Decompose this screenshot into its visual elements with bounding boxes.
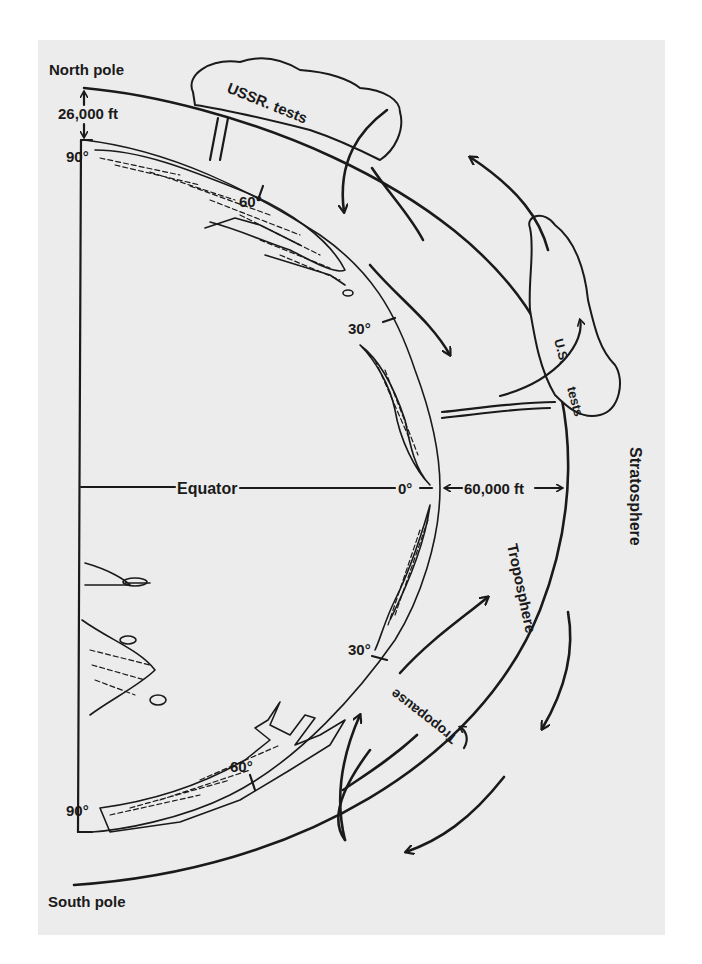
south-inner-line bbox=[343, 735, 417, 790]
ussr-mushroom-stem bbox=[210, 118, 228, 160]
atmosphere-diagram: USSR. tests U.S. tests North pole 26,000… bbox=[0, 0, 702, 964]
strat-bottom-arrow bbox=[406, 777, 504, 852]
south-upward-arrow bbox=[340, 715, 360, 840]
equator-tropopause-height-label: 60,000 ft bbox=[464, 480, 524, 497]
lat-60n-label: 60° bbox=[239, 193, 262, 210]
lat-90n-label: 90° bbox=[66, 148, 89, 165]
lat-30n-label: 30° bbox=[348, 320, 371, 337]
south-pole-label: South pole bbox=[48, 893, 126, 910]
north-pole-label: North pole bbox=[49, 61, 124, 78]
ussr-test-cloud: USSR. tests bbox=[191, 58, 401, 160]
northern-landmass bbox=[95, 150, 430, 485]
lat-30s-tick bbox=[372, 656, 387, 660]
us-mushroom-stem bbox=[442, 402, 555, 418]
strat-downward-arrow bbox=[542, 612, 570, 729]
equator-label: Equator bbox=[177, 480, 237, 497]
north-mid-arrow bbox=[370, 265, 450, 355]
lat-30n-tick bbox=[383, 318, 395, 322]
south-tropo-arrow bbox=[400, 597, 488, 673]
troposphere-label: Troposphere bbox=[504, 542, 540, 634]
lat-60s-label: 60° bbox=[230, 758, 253, 775]
southern-landmass bbox=[82, 505, 430, 832]
pole-tropopause-height-label: 26,000 ft bbox=[58, 105, 118, 122]
lat-60s-tick bbox=[250, 775, 255, 790]
tropopause-pointer-arrow bbox=[460, 727, 467, 748]
us-test-cloud: U.S. tests bbox=[442, 216, 620, 418]
lat-30s-label: 30° bbox=[348, 641, 371, 658]
stratosphere-label: Stratosphere bbox=[627, 447, 644, 546]
lat-0-label: 0° bbox=[398, 480, 412, 497]
tropopause-label: Tropopause bbox=[387, 686, 460, 748]
lat-90s-label: 90° bbox=[66, 802, 89, 819]
